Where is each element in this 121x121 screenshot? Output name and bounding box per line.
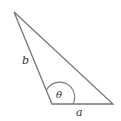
angle-theta-label: θ bbox=[56, 89, 62, 100]
side-b-label: b bbox=[22, 54, 29, 67]
triangle-diagram: b θ a bbox=[0, 0, 121, 121]
side-a-label: a bbox=[76, 106, 83, 119]
